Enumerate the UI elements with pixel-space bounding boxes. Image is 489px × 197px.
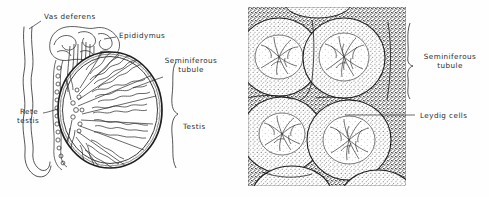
label-seminiferous-tubule-left-line2: tubule — [161, 65, 221, 75]
vas-deferens-structure — [23, 27, 51, 177]
vas-deferens-leader — [29, 21, 41, 29]
label-leydig-cells: Leydig cells — [420, 111, 467, 121]
seminiferous-tubule-section — [307, 100, 391, 180]
left-panel-diagram — [0, 0, 489, 197]
seminiferous-tubule-section — [303, 18, 385, 98]
label-vas-deferens: Vas deferens — [44, 12, 96, 22]
label-seminiferous-tubule-right-line2: tubule — [418, 61, 482, 71]
label-epididymus: Epididymus — [119, 31, 165, 41]
label-testis: Testis — [183, 122, 206, 132]
histology-plate — [238, 0, 416, 197]
testis-brace — [172, 62, 178, 168]
label-rete-testis-line2: testis — [17, 116, 39, 126]
seminiferous-tubule-brace-right — [408, 23, 413, 99]
anatomy-figure: Vas deferens Epididymus Seminiferous tub… — [0, 0, 489, 197]
